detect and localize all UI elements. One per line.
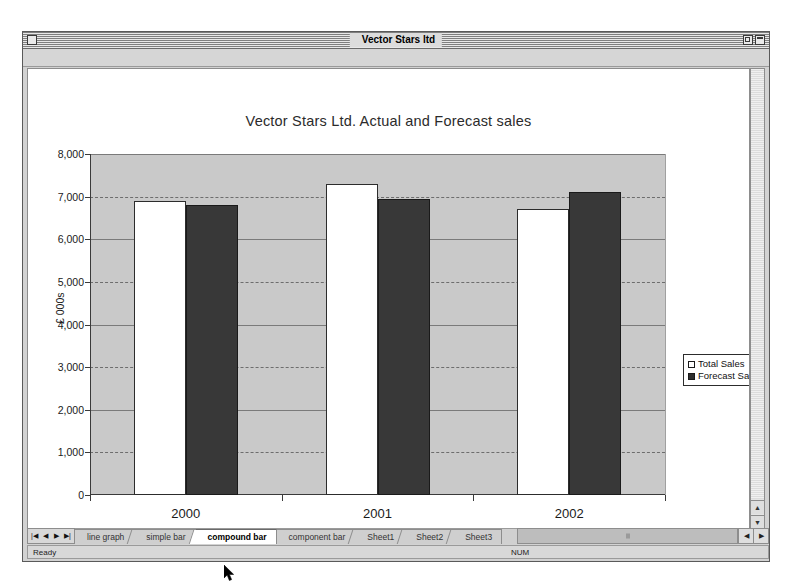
x-axis-tick-label: 2002 xyxy=(555,506,584,521)
y-axis-tick-label: 1,000 xyxy=(58,446,84,458)
toolbar-strip xyxy=(23,49,769,67)
tab-first-button[interactable]: |◀ xyxy=(29,530,40,543)
zoom-box-icon[interactable] xyxy=(743,35,753,45)
chart-sheet[interactable]: Vector Stars Ltd. Actual and Forecast sa… xyxy=(27,68,750,530)
tab-compound-bar[interactable]: compound bar xyxy=(196,529,277,544)
status-message: Ready xyxy=(28,548,56,557)
tab-label: compound bar xyxy=(208,532,267,542)
plot-frame: 01,0002,0003,0004,0005,0006,0007,0008,00… xyxy=(90,154,665,495)
bar-forecast-sales-2001[interactable] xyxy=(378,199,430,495)
tab-label: Sheet3 xyxy=(465,532,492,542)
y-axis-tick-mark xyxy=(85,325,90,326)
x-axis-tick-label: 2000 xyxy=(171,506,200,521)
scroll-up-button[interactable]: ▲ xyxy=(751,500,764,514)
y-axis-line xyxy=(90,154,91,495)
close-box-icon[interactable] xyxy=(27,35,37,45)
y-axis-tick-label: 4,000 xyxy=(58,319,84,331)
vertical-scrollbar-track[interactable] xyxy=(751,69,764,499)
tab-label: simple bar xyxy=(146,532,185,542)
tab-prev-button[interactable]: ◀ xyxy=(40,530,51,543)
y-axis-tick-mark xyxy=(85,410,90,411)
y-axis-tick-mark xyxy=(85,282,90,283)
gridline xyxy=(90,154,665,155)
y-axis-tick-label: 5,000 xyxy=(58,276,84,288)
legend-label: Total Sales xyxy=(698,358,744,370)
y-axis-tick-label: 6,000 xyxy=(58,233,84,245)
y-axis-tick-mark xyxy=(85,452,90,453)
scroll-left-button[interactable]: ◀ xyxy=(738,529,753,543)
y-axis-tick-mark xyxy=(85,154,90,155)
tab-label: Sheet2 xyxy=(416,532,443,542)
y-axis-tick-label: 3,000 xyxy=(58,361,84,373)
bar-total-sales-2000[interactable] xyxy=(134,201,186,495)
tab-sheet3[interactable]: Sheet3 xyxy=(453,529,502,544)
y-axis-tick-label: 7,000 xyxy=(58,191,84,203)
x-axis-tick-label: 2001 xyxy=(363,506,392,521)
window-gadgets xyxy=(743,35,765,45)
horizontal-scrollbar-thumb[interactable] xyxy=(518,529,738,543)
tab-next-button[interactable]: ▶ xyxy=(51,530,62,543)
x-axis-tick-mark xyxy=(90,495,91,501)
y-axis-tick-mark xyxy=(85,197,90,198)
x-axis-tick-mark xyxy=(473,495,474,501)
application-window: Vector Stars ltd Vector Stars Ltd. Actua… xyxy=(22,31,770,562)
tab-label: line graph xyxy=(87,532,124,542)
window-titlebar[interactable]: Vector Stars ltd xyxy=(23,32,769,49)
tab-component-bar[interactable]: component bar xyxy=(277,529,356,544)
bar-forecast-sales-2002[interactable] xyxy=(569,192,621,495)
sheet-tab-strip: |◀ ◀ ▶ ▶| line graphsimple barcompound b… xyxy=(27,528,769,544)
legend-swatch-icon xyxy=(688,361,695,368)
y-axis-tick-mark xyxy=(85,239,90,240)
y-axis-tick-label: 8,000 xyxy=(58,148,84,160)
status-bar: Ready NUM xyxy=(27,545,769,559)
sheet-tabs: line graphsimple barcompound barcomponen… xyxy=(75,528,517,544)
y-axis-tick-label: 0 xyxy=(78,489,84,501)
chart-title: Vector Stars Ltd. Actual and Forecast sa… xyxy=(28,113,749,129)
scroll-down-button[interactable]: ▼ xyxy=(751,515,764,529)
legend-swatch-icon xyxy=(688,373,695,380)
legend-item: Total Sales xyxy=(688,358,750,370)
scroll-right-button[interactable]: ▶ xyxy=(753,529,768,543)
bar-forecast-sales-2000[interactable] xyxy=(186,205,238,495)
window-title: Vector Stars ltd xyxy=(350,33,442,47)
horizontal-scrollbar[interactable]: ◀ ▶ xyxy=(517,528,769,544)
legend-item: Forecast Sales xyxy=(688,370,750,382)
chart-legend: Total SalesForecast Sales xyxy=(683,354,750,386)
tab-label: component bar xyxy=(289,532,346,542)
x-axis-tick-mark xyxy=(282,495,283,501)
legend-label: Forecast Sales xyxy=(698,370,750,382)
collapse-box-icon[interactable] xyxy=(755,35,765,45)
bar-total-sales-2002[interactable] xyxy=(517,209,569,495)
num-lock-indicator: NUM xyxy=(511,548,529,557)
tab-line-graph[interactable]: line graph xyxy=(75,529,134,544)
tab-last-button[interactable]: ▶| xyxy=(62,530,73,543)
y-axis-tick-label: 2,000 xyxy=(58,404,84,416)
tab-nav-buttons: |◀ ◀ ▶ ▶| xyxy=(27,528,75,544)
vertical-scrollbar[interactable]: ▲ ▼ xyxy=(750,68,765,530)
bar-total-sales-2001[interactable] xyxy=(326,184,378,495)
y-axis-tick-mark xyxy=(85,367,90,368)
tab-simple-bar[interactable]: simple bar xyxy=(134,529,195,544)
x-axis-tick-mark xyxy=(665,495,666,501)
tab-label: Sheet1 xyxy=(367,532,394,542)
